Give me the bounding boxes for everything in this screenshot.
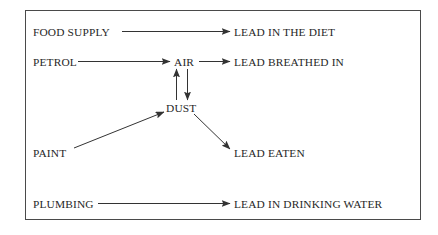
node-plumbing: PLUMBING — [33, 198, 94, 210]
diagram-frame — [25, 10, 421, 220]
node-petrol: PETROL — [33, 56, 77, 68]
diagram-canvas: FOOD SUPPLY LEAD IN THE DIET PETROL AIR … — [0, 0, 438, 235]
node-paint: PAINT — [33, 147, 66, 159]
node-lead-in-drinking-water: LEAD IN DRINKING WATER — [234, 198, 382, 210]
node-air: AIR — [174, 56, 194, 68]
node-food-supply: FOOD SUPPLY — [33, 26, 110, 38]
node-lead-in-the-diet: LEAD IN THE DIET — [234, 26, 335, 38]
node-dust: DUST — [166, 102, 196, 114]
node-lead-eaten: LEAD EATEN — [234, 147, 305, 159]
node-lead-breathed-in: LEAD BREATHED IN — [234, 56, 344, 68]
